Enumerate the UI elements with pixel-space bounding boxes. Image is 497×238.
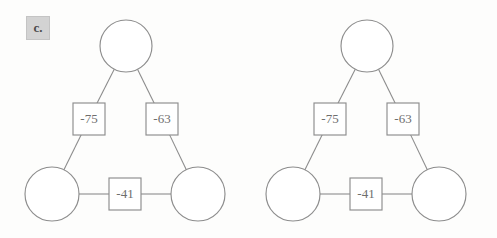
edge-label-box-top-bottomright[interactable]: -63 [387, 103, 419, 135]
graph-node-top[interactable] [100, 20, 152, 72]
edge-label-box-bottomleft-bottomright[interactable]: -41 [350, 178, 382, 210]
graph-node-bottom-left[interactable] [266, 167, 320, 221]
graph-diagram-right: -75-63-41 [243, 0, 491, 238]
edge-label-box-top-bottomright[interactable]: -63 [146, 103, 178, 135]
graph-node-bottom-right[interactable] [412, 167, 466, 221]
edge-connector-line [305, 133, 323, 170]
figure-panel: c. -75-63-41 -75-63-41 [0, 0, 497, 238]
graph-node-top[interactable] [341, 20, 393, 72]
edge-label-value: -63 [153, 111, 170, 126]
graph-node-bottom-left[interactable] [25, 167, 79, 221]
edge-label-value: -63 [394, 111, 411, 126]
edge-connector-line [337, 69, 355, 105]
edge-label-box-top-bottomleft[interactable]: -75 [73, 103, 105, 135]
edge-connector-line [137, 69, 155, 105]
edge-label-box-top-bottomleft[interactable]: -75 [314, 103, 346, 135]
edge-label-value: -75 [321, 111, 338, 126]
edge-connector-line [378, 69, 396, 105]
edge-connector-line [64, 133, 82, 170]
edge-connector-line [96, 69, 114, 105]
edge-label-value: -41 [357, 186, 374, 201]
edge-connector-line [410, 133, 428, 170]
edge-connector-line [169, 133, 187, 170]
graph-diagram-left: -75-63-41 [0, 0, 248, 238]
edge-label-value: -41 [116, 186, 133, 201]
edge-label-value: -75 [80, 111, 97, 126]
edge-label-box-bottomleft-bottomright[interactable]: -41 [109, 178, 141, 210]
graph-node-bottom-right[interactable] [171, 167, 225, 221]
